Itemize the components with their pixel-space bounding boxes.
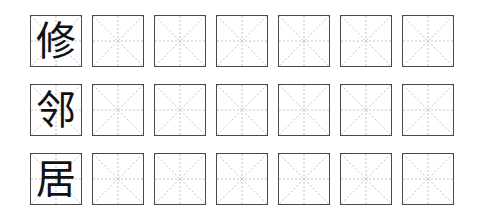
mi-grid-guides [155,85,205,135]
mi-grid-guides [341,85,391,135]
practice-cell [216,153,268,205]
model-character-cell: 邻 [30,84,82,136]
practice-cell [154,84,206,136]
mi-grid-guides [93,85,143,135]
mi-grid-guides [155,154,205,204]
mi-grid-guides [279,154,329,204]
practice-cell [340,84,392,136]
model-character: 修 [31,16,81,66]
practice-cell [402,153,454,205]
practice-cell [154,15,206,67]
mi-grid-guides [93,16,143,66]
practice-cell [402,15,454,67]
practice-cell [216,84,268,136]
practice-cell [278,84,330,136]
mi-grid-guides [341,154,391,204]
practice-cell [278,15,330,67]
mi-grid-guides [93,154,143,204]
mi-grid-guides [403,85,453,135]
model-character: 居 [31,154,81,204]
practice-cell [340,153,392,205]
practice-cell [402,84,454,136]
practice-cell [92,84,144,136]
practice-cell [154,153,206,205]
mi-grid-guides [279,16,329,66]
mi-grid-guides [403,16,453,66]
model-character-cell: 修 [30,15,82,67]
practice-cell [340,15,392,67]
mi-grid-guides [217,154,267,204]
mi-grid-guides [279,85,329,135]
practice-cell [216,15,268,67]
model-character: 邻 [31,85,81,135]
mi-grid-guides [341,16,391,66]
mi-grid-guides [155,16,205,66]
practice-cell [278,153,330,205]
mi-grid-guides [403,154,453,204]
mi-grid-guides [217,16,267,66]
practice-cell [92,153,144,205]
model-character-cell: 居 [30,153,82,205]
mi-grid-guides [217,85,267,135]
practice-cell [92,15,144,67]
